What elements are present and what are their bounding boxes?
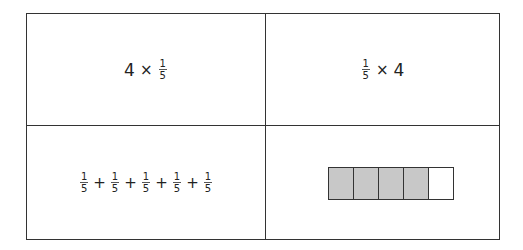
plus-operator: + [155, 174, 168, 192]
cell-repeated-addition: 1 5 + 1 5 + 1 5 + 1 5 + 1 5 [27, 126, 266, 239]
numerator: 1 [173, 171, 181, 183]
denominator: 5 [160, 70, 166, 81]
matching-grid: 4 × 1 5 1 5 × 4 1 5 + 1 5 [26, 13, 500, 240]
denominator: 5 [205, 183, 211, 194]
denominator: 5 [174, 183, 180, 194]
fraction: 1 5 [80, 171, 88, 194]
bar-segment-unshaded [429, 168, 453, 199]
bar-segment-shaded [379, 168, 404, 199]
fraction: 1 5 [159, 58, 167, 81]
denominator: 5 [363, 70, 369, 81]
fraction-bar-model [328, 167, 454, 200]
whole-number: 4 [394, 60, 405, 80]
cell-bar-model [266, 126, 499, 239]
denominator: 5 [112, 183, 118, 194]
plus-operator: + [124, 174, 137, 192]
numerator: 1 [142, 171, 150, 183]
expression: 1 5 × 4 [361, 58, 405, 81]
numerator: 1 [80, 171, 88, 183]
plus-operator: + [93, 174, 106, 192]
fraction: 1 5 [142, 171, 150, 194]
expression: 4 × 1 5 [124, 58, 168, 81]
cell-whole-times-fraction: 4 × 1 5 [27, 14, 266, 126]
numerator: 1 [204, 171, 212, 183]
plus-operator: + [186, 174, 199, 192]
bar-segment-shaded [329, 168, 354, 199]
whole-number: 4 [124, 60, 135, 80]
fraction: 1 5 [362, 58, 370, 81]
bar-segment-shaded [404, 168, 429, 199]
fraction: 1 5 [173, 171, 181, 194]
bar-segment-shaded [354, 168, 379, 199]
times-operator: × [376, 61, 389, 79]
numerator: 1 [111, 171, 119, 183]
denominator: 5 [143, 183, 149, 194]
fraction: 1 5 [111, 171, 119, 194]
denominator: 5 [81, 183, 87, 194]
times-operator: × [140, 61, 153, 79]
fraction: 1 5 [204, 171, 212, 194]
numerator: 1 [159, 58, 167, 70]
cell-fraction-times-whole: 1 5 × 4 [266, 14, 499, 126]
expression: 1 5 + 1 5 + 1 5 + 1 5 + 1 5 [79, 171, 213, 194]
numerator: 1 [362, 58, 370, 70]
